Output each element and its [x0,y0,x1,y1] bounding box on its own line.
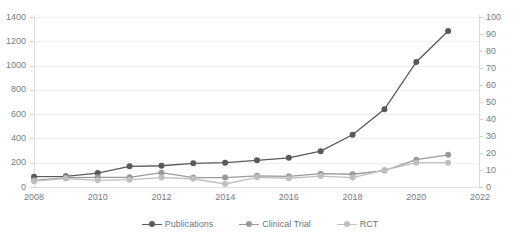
data-point [190,160,196,166]
data-point [350,132,356,138]
data-point [63,176,69,182]
data-point [222,181,228,187]
data-point [158,163,164,169]
legend-item[interactable]: RCT [337,219,379,229]
data-point [254,174,260,180]
data-point [95,177,101,183]
data-point [127,163,133,169]
data-point [318,173,324,179]
legend-label: RCT [360,219,379,229]
legend-marker-icon [337,220,357,228]
chart-legend: PublicationsClinical TrialRCT [0,219,520,229]
data-point [127,177,133,183]
series-line [34,31,448,177]
legend-marker-icon [142,220,162,228]
data-point [381,106,387,112]
data-point [190,176,196,182]
data-point [222,160,228,166]
data-point [31,178,37,184]
data-point [413,160,419,166]
data-point [254,157,260,163]
data-point [158,175,164,181]
data-point [381,167,387,173]
data-point [413,59,419,65]
series-layer [0,0,520,236]
legend-label: Publications [165,219,214,229]
data-point [445,152,451,158]
legend-label: Clinical Trial [262,219,311,229]
legend-item[interactable]: Clinical Trial [239,219,311,229]
line-chart: 0200400600800100012001400 01020304050607… [0,0,520,236]
legend-item[interactable]: Publications [142,219,214,229]
data-point [286,155,292,161]
legend-marker-icon [239,220,259,228]
data-point [445,28,451,34]
data-point [350,175,356,181]
data-point [445,160,451,166]
data-point [318,148,324,154]
data-point [286,175,292,181]
data-point [222,175,228,181]
